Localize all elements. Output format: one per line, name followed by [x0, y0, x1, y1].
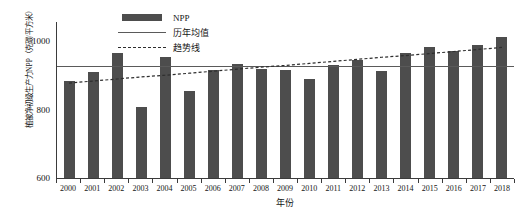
bar-2008 [256, 69, 267, 178]
bar-2000 [64, 81, 75, 178]
x-tick-mark [393, 179, 394, 183]
bar-2007 [232, 64, 243, 178]
x-tick-mark [369, 179, 370, 183]
x-tick-mark [466, 179, 467, 183]
x-tick-label-2018: 2018 [490, 183, 514, 195]
bar-2017 [472, 45, 483, 178]
bar-cell [225, 22, 249, 178]
bar-2005 [184, 91, 195, 178]
x-tick-mark [225, 179, 226, 183]
y-tick-label-600: 600 [16, 174, 50, 183]
x-tick-label-2007: 2007 [225, 183, 249, 195]
x-tick-mark [273, 179, 274, 183]
bar-2009 [280, 70, 291, 178]
bar-2014 [400, 53, 411, 178]
bar-cell [346, 22, 370, 178]
x-tick-label-2004: 2004 [152, 183, 176, 195]
bar-cell [490, 22, 514, 178]
x-tick-label-2012: 2012 [345, 183, 369, 195]
y-tick-label-1000: 1000 [16, 37, 50, 46]
legend-item-npp: NPP [118, 10, 209, 25]
bar-2003 [136, 107, 147, 178]
x-tick-label-2014: 2014 [394, 183, 418, 195]
bar-cell [442, 22, 466, 178]
bar-cell [273, 22, 297, 178]
bar-2018 [496, 37, 507, 178]
bar-2013 [376, 71, 387, 179]
chart-legend: NPP 历年均值 趋势线 [118, 10, 209, 55]
bar-2010 [304, 79, 315, 178]
legend-label-trend: 趋势线 [173, 41, 200, 54]
x-tick-mark [297, 179, 298, 183]
legend-label-mean: 历年均值 [173, 26, 209, 39]
x-tick-label-2010: 2010 [297, 183, 321, 195]
x-tick-label-2003: 2003 [128, 183, 152, 195]
x-tick-label-2013: 2013 [369, 183, 393, 195]
x-tick-mark [177, 179, 178, 183]
x-tick-mark [490, 179, 491, 183]
bar-2011 [328, 65, 339, 178]
bar-2006 [208, 70, 219, 178]
x-tick-label-2005: 2005 [177, 183, 201, 195]
bar-2001 [88, 72, 99, 178]
x-tick-label-2002: 2002 [104, 183, 128, 195]
x-axis-title: 年份 [56, 196, 514, 209]
x-tick-label-2008: 2008 [249, 183, 273, 195]
dashed-line-swatch-icon [118, 42, 166, 53]
x-tick-label-2001: 2001 [80, 183, 104, 195]
x-tick-mark [80, 179, 81, 183]
y-axis-tick-labels: 1000 800 600 [14, 0, 50, 219]
legend-item-trend: 趋势线 [118, 40, 209, 55]
x-tick-mark [56, 179, 57, 183]
bar-2004 [160, 57, 171, 178]
bar-2015 [424, 47, 435, 178]
bar-2002 [112, 53, 123, 178]
x-tick-mark [442, 179, 443, 183]
x-tick-mark [128, 179, 129, 183]
bar-2016 [448, 51, 459, 178]
x-axis-tick-labels: 2000200120022003200420052006200720082009… [56, 183, 514, 195]
bar-cell [394, 22, 418, 178]
x-tick-label-2015: 2015 [418, 183, 442, 195]
x-tick-mark [104, 179, 105, 183]
x-tick-mark [321, 179, 322, 183]
x-tick-mark [418, 179, 419, 183]
chart-figure: 植被净初级生产力NPP（克碳/平方米） 1000 800 600 2000200… [0, 0, 524, 219]
bar-cell [370, 22, 394, 178]
x-tick-mark [514, 179, 515, 183]
bar-2012 [352, 60, 363, 178]
x-tick-label-2016: 2016 [442, 183, 466, 195]
bar-swatch-icon [118, 12, 166, 23]
bar-cell [418, 22, 442, 178]
solid-line-swatch-icon [118, 27, 166, 38]
bar-cell [466, 22, 490, 178]
bar-cell [322, 22, 346, 178]
x-tick-label-2006: 2006 [201, 183, 225, 195]
bar-cell [249, 22, 273, 178]
bar-cell [297, 22, 321, 178]
x-tick-label-2000: 2000 [56, 183, 80, 195]
legend-item-mean: 历年均值 [118, 25, 209, 40]
y-tick-label-800: 800 [16, 106, 50, 115]
x-tick-mark [201, 179, 202, 183]
x-tick-label-2011: 2011 [321, 183, 345, 195]
bar-cell [57, 22, 81, 178]
x-tick-mark [345, 179, 346, 183]
x-tick-label-2009: 2009 [273, 183, 297, 195]
x-tick-mark [152, 179, 153, 183]
x-tick-mark [249, 179, 250, 183]
bar-cell [81, 22, 105, 178]
legend-label-npp: NPP [173, 13, 190, 23]
x-tick-label-2017: 2017 [466, 183, 490, 195]
